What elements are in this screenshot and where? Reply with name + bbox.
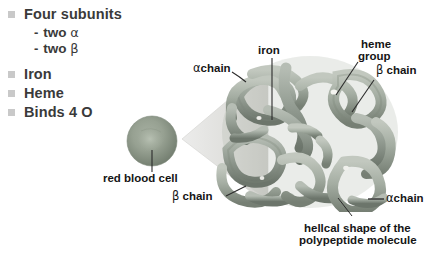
label-iron: iron [258,44,280,57]
list-spacer [8,57,193,66]
bullet-list: Four subunits - two α - two β Iron Heme … [8,6,193,123]
label-heme-group-line1: heme [361,38,391,51]
sub-bullet-label: two α [43,25,79,40]
label-alpha-chain-left: ααchainchain [193,62,231,75]
bullet-square-icon [8,71,15,78]
dash-icon: - [34,25,38,40]
label-beta-chain-right: β chain [376,64,417,77]
sub-bullet-label: two β [43,41,78,56]
greek-beta: β [70,41,78,56]
bullet-label: Four subunits [24,6,122,22]
leader-alpha-left [232,72,246,82]
bullet-square-icon [8,11,15,18]
label-heme-group-line2: group [358,50,391,63]
bullet-item-heme: Heme [8,85,193,101]
label-alpha-chain-right: αchain [386,192,424,205]
dash-icon: - [34,41,38,56]
figure-canvas: Four subunits - two α - two β Iron Heme … [0,0,439,259]
label-red-blood-cell: red blood cell [103,172,178,185]
bullet-label: Heme [24,85,64,101]
bullet-square-icon [8,90,15,97]
greek-alpha: α [70,25,79,40]
bullet-square-icon [8,109,15,116]
caption-line1: hellcal shape of the [304,222,411,235]
bullet-item-iron: Iron [8,66,193,82]
bullet-item-binds-4-o: Binds 4 O [8,104,193,120]
bullet-label: Binds 4 O [24,104,93,120]
bullet-item-four-subunits: Four subunits [8,6,193,22]
label-beta-chain-bottom: β chain [172,190,213,203]
sub-bullet-two-beta: - two β [34,41,193,56]
caption-line2: polypeptide molecule [299,234,417,247]
bullet-label: Iron [24,66,52,82]
sub-bullet-two-alpha: - two α [34,25,193,40]
